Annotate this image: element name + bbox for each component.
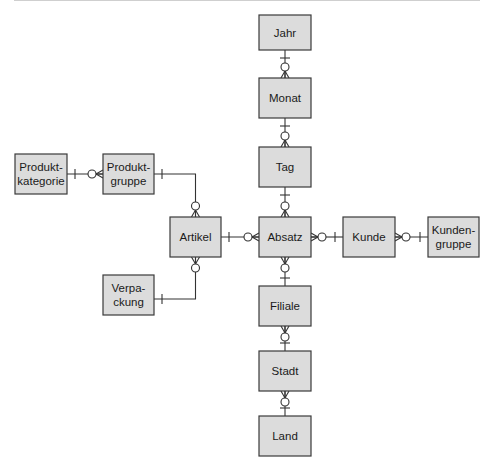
crow-foot	[285, 71, 289, 78]
entity-tag: Tag	[259, 147, 311, 187]
entity-jahr: Jahr	[259, 15, 311, 50]
zero-circle	[281, 202, 289, 210]
entity-verpackung: Verpa-ckung	[103, 275, 154, 315]
entity-label: gruppe	[111, 175, 147, 187]
entity-box	[103, 275, 154, 315]
zero-circle	[402, 233, 410, 241]
crow-foot	[281, 326, 285, 333]
crow-foot	[96, 170, 103, 174]
connector-line	[154, 174, 196, 217]
entity-absatz: Absatz	[259, 217, 311, 257]
entity-label: Kunden-	[432, 224, 476, 236]
relationship-kunde-absatz	[311, 232, 343, 242]
entity-box	[103, 154, 154, 194]
zero-circle	[281, 264, 289, 272]
crow-foot	[196, 210, 200, 217]
entity-label: Verpa-	[112, 282, 146, 294]
entity-label: Produkt-	[107, 161, 151, 173]
connector-line	[154, 257, 196, 299]
zero-circle	[88, 170, 96, 178]
crow-foot	[395, 237, 402, 241]
entity-label: Land	[272, 430, 298, 442]
entity-label: Tag	[276, 161, 295, 173]
crow-foot	[96, 174, 103, 178]
crow-foot	[281, 71, 285, 78]
crow-foot	[252, 233, 259, 237]
relationship-land-stadt	[280, 391, 290, 416]
entity-produktkategorie: Produkt-kategorie	[15, 154, 67, 194]
relationship-monat-tag	[280, 118, 290, 147]
entity-box	[428, 217, 479, 257]
crow-foot	[281, 140, 285, 147]
relationship-stadt-filiale	[280, 326, 290, 351]
relationship-tag-absatz	[280, 187, 290, 217]
entity-label: Artikel	[180, 231, 212, 243]
crow-foot	[252, 237, 259, 241]
relationship-filiale-absatz	[280, 257, 290, 286]
crow-foot	[311, 233, 318, 237]
entity-stadt: Stadt	[259, 351, 311, 391]
crow-foot	[281, 210, 285, 217]
entity-monat: Monat	[259, 78, 311, 118]
crow-foot	[192, 257, 196, 264]
relationship-kundengruppe-kunde	[395, 232, 428, 242]
entity-kunde: Kunde	[343, 217, 395, 257]
entity-label: kategorie	[17, 175, 64, 187]
crow-foot	[281, 391, 285, 398]
entity-label: Stadt	[272, 365, 300, 377]
zero-circle	[318, 233, 326, 241]
zero-circle	[281, 333, 289, 341]
crow-foot	[395, 233, 402, 237]
zero-circle	[281, 63, 289, 71]
entity-label: Produkt-	[19, 161, 63, 173]
relationship-artikel-absatz	[221, 232, 259, 242]
crow-foot	[285, 326, 289, 333]
relationship-produktkategorie-produktgruppe	[67, 169, 103, 179]
relationship-jahr-monat	[280, 50, 290, 78]
zero-circle	[192, 264, 200, 272]
entity-label: Filiale	[270, 300, 300, 312]
entity-label: ckung	[113, 296, 144, 308]
relationship-produktgruppe-artikel	[154, 169, 200, 217]
crow-foot	[192, 210, 196, 217]
crow-foot	[285, 140, 289, 147]
zero-circle	[281, 398, 289, 406]
entity-filiale: Filiale	[259, 286, 311, 326]
crow-foot	[311, 237, 318, 241]
entity-label: Monat	[269, 92, 302, 104]
crow-foot	[285, 391, 289, 398]
crow-foot	[281, 257, 285, 264]
entity-label: Absatz	[267, 231, 302, 243]
entity-produktgruppe: Produkt-gruppe	[103, 154, 154, 194]
entity-land: Land	[259, 416, 311, 456]
entity-label: Jahr	[274, 27, 297, 39]
zero-circle	[281, 132, 289, 140]
entity-box	[15, 154, 67, 194]
crow-foot	[285, 257, 289, 264]
zero-circle	[244, 233, 252, 241]
entity-artikel: Artikel	[170, 217, 221, 257]
entity-kundengruppe: Kunden-gruppe	[428, 217, 479, 257]
entity-label: gruppe	[436, 238, 472, 250]
relationship-verpackung-artikel	[154, 257, 200, 304]
er-diagram: JahrMonatTagAbsatzFilialeStadtLandArtike…	[0, 0, 491, 469]
crow-foot	[285, 210, 289, 217]
entity-label: Kunde	[352, 231, 385, 243]
zero-circle	[192, 202, 200, 210]
crow-foot	[196, 257, 200, 264]
